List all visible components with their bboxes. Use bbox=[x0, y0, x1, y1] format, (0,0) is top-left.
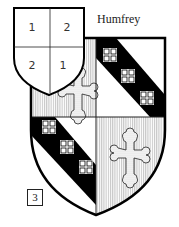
figure-number-box: 3 bbox=[27, 189, 43, 206]
key-shield: 1 2 2 1 bbox=[14, 8, 84, 95]
key-quarter-3: 2 bbox=[29, 59, 36, 72]
cross-crosslet-icon bbox=[103, 48, 117, 62]
cross-crosslet-icon bbox=[42, 120, 56, 134]
cross-crosslet-icon bbox=[140, 91, 154, 105]
cross-crosslet-icon bbox=[60, 140, 74, 154]
family-name-label: Humfrey bbox=[97, 12, 140, 27]
key-quarter-2: 2 bbox=[64, 21, 71, 34]
cross-crosslet-icon bbox=[121, 69, 135, 83]
cross-crosslet-icon bbox=[79, 160, 93, 174]
key-quarter-1: 1 bbox=[29, 21, 36, 34]
key-quarter-4: 1 bbox=[60, 59, 67, 72]
